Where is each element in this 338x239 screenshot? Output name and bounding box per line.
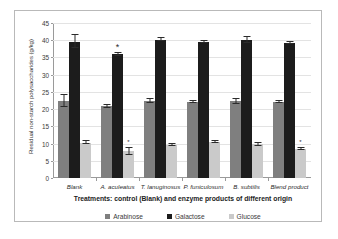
x-axis-category-label: T. lanuginosus <box>141 183 181 190</box>
error-bar-cap <box>254 145 261 146</box>
error-bar-cap <box>125 154 132 155</box>
bar-glucose[interactable] <box>252 144 263 178</box>
bar-slot: * <box>112 23 123 178</box>
legend-item-glucose[interactable]: Glucose <box>229 213 261 220</box>
bar-slot: * <box>295 23 306 178</box>
bar-glucose[interactable] <box>80 143 91 178</box>
chart-plot-frame: Residual non-starch polysaccharides (g/k… <box>14 10 322 222</box>
error-bar-cap <box>60 106 67 107</box>
bar-slot <box>187 23 198 178</box>
legend-swatch-icon <box>229 214 234 219</box>
bar-slot <box>284 23 295 178</box>
error-bar-cap <box>189 100 196 101</box>
chart-legend: ArabinoseGalactoseGlucose <box>29 213 337 220</box>
error-bar-cap <box>189 102 196 103</box>
error-bar-cap <box>286 41 293 42</box>
error-bar-cap <box>297 149 304 150</box>
error-bar-cap <box>168 143 175 144</box>
bar-galactose[interactable] <box>241 40 252 178</box>
legend-label: Arabinose <box>113 213 143 220</box>
bar-slot <box>230 23 241 178</box>
error-bar-cap <box>200 42 207 43</box>
bar-group-bars <box>139 23 182 178</box>
error-bar-cap <box>157 37 164 38</box>
chart-figure: Residual non-starch polysaccharides (g/k… <box>0 0 338 239</box>
bar-arabinose[interactable] <box>101 106 112 178</box>
bar-slot <box>101 23 112 178</box>
significance-asterisk: * <box>116 44 120 50</box>
error-bar-cap <box>146 98 153 99</box>
bar-group <box>53 23 96 178</box>
bar-slot <box>209 23 220 178</box>
error-bar-cap <box>243 36 250 37</box>
bar-glucose[interactable] <box>295 149 306 178</box>
bar-group-bars: * <box>268 23 311 178</box>
bar-galactose[interactable] <box>198 42 209 178</box>
x-axis-category-label: Blank <box>67 183 82 190</box>
error-bar-cap <box>125 147 132 148</box>
error-bar-cap <box>103 104 110 105</box>
error-bar-cap <box>71 47 78 48</box>
bar-arabinose[interactable] <box>144 101 155 178</box>
error-bar-cap <box>146 102 153 103</box>
error-bar-cap <box>103 107 110 108</box>
legend-item-galactose[interactable]: Galactose <box>167 213 205 220</box>
error-bar-cap <box>157 40 164 41</box>
error-bar-cap <box>71 34 78 35</box>
error-bar-cap <box>114 52 121 53</box>
bar-slot <box>252 23 263 178</box>
error-bar-cap <box>297 147 304 148</box>
bar-galactose[interactable] <box>69 42 80 178</box>
legend-label: Glucose <box>237 213 261 220</box>
error-bar-cap <box>211 142 218 143</box>
bar-arabinose[interactable] <box>230 101 241 178</box>
x-axis-category-label: A. aculeatus <box>100 183 134 190</box>
significance-asterisk: * <box>127 140 129 145</box>
error-bar-cap <box>232 103 239 104</box>
bar-slot <box>144 23 155 178</box>
x-axis-tick-mark <box>96 178 97 181</box>
x-axis-category-labels: BlankA. aculeatusT. lanuginosusP. funicu… <box>53 183 311 195</box>
error-bar-cap <box>211 140 218 141</box>
bar-galactose[interactable] <box>112 54 123 178</box>
bar-group-bars: ** <box>96 23 139 178</box>
bar-arabinose[interactable] <box>187 102 198 178</box>
bar-slot <box>273 23 284 178</box>
bar-group: * <box>268 23 311 178</box>
x-axis-category-label: P. funiculosum <box>184 183 224 190</box>
x-axis-title: Treatments: control (Blank) and enzyme p… <box>29 195 337 202</box>
x-axis-tick-mark <box>225 178 226 181</box>
bar-slot <box>166 23 177 178</box>
x-axis-category-label: B. subtilis <box>233 183 259 190</box>
bar-glucose[interactable] <box>166 145 177 178</box>
bar-slot <box>69 23 80 178</box>
error-bar-cap <box>60 94 67 95</box>
bar-group: ** <box>96 23 139 178</box>
x-axis-tick-mark <box>182 178 183 181</box>
bar-group <box>182 23 225 178</box>
error-bar-cap <box>168 145 175 146</box>
error-bar-cap <box>275 100 282 101</box>
error-bar-cap <box>286 43 293 44</box>
error-bar-cap <box>254 142 261 143</box>
bar-arabinose[interactable] <box>273 102 284 178</box>
significance-asterisk: * <box>299 140 301 145</box>
bar-galactose[interactable] <box>284 43 295 178</box>
y-axis-tick-mark <box>51 178 53 179</box>
error-bar-cap <box>243 42 250 43</box>
bar-slot <box>198 23 209 178</box>
bar-glucose[interactable] <box>123 151 134 178</box>
legend-item-arabinose[interactable]: Arabinose <box>105 213 143 220</box>
bar-glucose[interactable] <box>209 142 220 178</box>
bar-group <box>139 23 182 178</box>
x-axis-tick-mark <box>139 178 140 181</box>
plot-area: 051015202530354045 *** <box>53 23 311 178</box>
bar-group-bars <box>182 23 225 178</box>
legend-swatch-icon <box>105 214 110 219</box>
bar-arabinose[interactable] <box>58 101 69 178</box>
error-bar-cap <box>232 98 239 99</box>
error-bar-cap <box>82 143 89 144</box>
error-bar-cap <box>275 102 282 103</box>
bar-galactose[interactable] <box>155 40 166 178</box>
bar-slot <box>80 23 91 178</box>
